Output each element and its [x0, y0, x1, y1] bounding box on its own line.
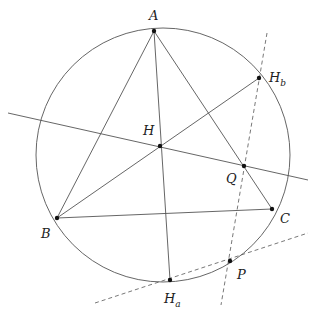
- label-P: P: [236, 267, 246, 282]
- point-B: [55, 216, 59, 220]
- label-Ha: Ha: [163, 291, 181, 309]
- circumcircle: [36, 28, 290, 282]
- side-AB: [57, 31, 154, 218]
- point-C: [270, 207, 274, 211]
- point-P: [228, 259, 232, 263]
- point-Ha: [168, 278, 172, 282]
- altitude-A-Ha: [154, 31, 170, 280]
- point-Q: [242, 164, 246, 168]
- points: [55, 29, 274, 282]
- label-A: A: [148, 8, 158, 23]
- label-B: B: [40, 226, 51, 241]
- dashed-line-Ha-P: [95, 233, 308, 303]
- point-H: [158, 144, 162, 148]
- point-A: [152, 29, 156, 33]
- label-Q: Q: [226, 171, 237, 186]
- point-Hb: [257, 76, 261, 80]
- geometry-diagram: ABCHQHbHaP: [0, 0, 317, 323]
- point-labels: ABCHQHbHaP: [40, 8, 290, 309]
- label-Hb: Hb: [268, 70, 286, 88]
- side-AC: [154, 31, 272, 209]
- label-C: C: [280, 211, 290, 226]
- label-H: H: [142, 123, 155, 138]
- solid-segments: [8, 31, 308, 280]
- side-BC: [57, 209, 272, 218]
